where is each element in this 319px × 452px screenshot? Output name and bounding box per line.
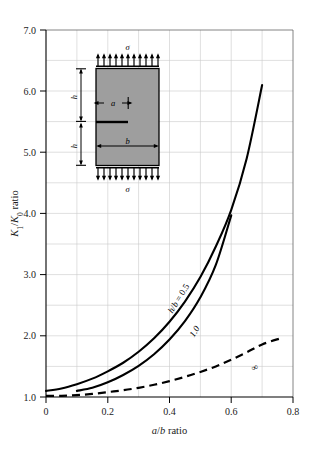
chart-svg: 1.0 2.0 3.0 4.0 5.0 6.0 7.0 0 0.2 0.4 0.…	[0, 0, 319, 452]
x-axis-tick-labels: 0 0.2 0.4 0.6 0.8	[44, 406, 300, 417]
y-tick-label: 1.0	[24, 392, 37, 403]
inset-plate	[96, 69, 159, 166]
y-axis-tick-labels: 1.0 2.0 3.0 4.0 5.0 6.0 7.0	[24, 25, 37, 403]
x-axis-ticks	[46, 397, 293, 403]
inset-b-label: b	[125, 136, 129, 146]
x-tick-label: 0.6	[225, 406, 238, 417]
y-axis-ticks	[40, 30, 46, 397]
inset-a-label: a	[111, 98, 115, 108]
x-tick-label: 0	[44, 406, 49, 417]
inset-h-lower-label: h	[69, 144, 79, 148]
y-tick-label: 4.0	[24, 208, 37, 219]
y-axis-title: K1/K0 ratio	[9, 190, 25, 237]
x-axis-title: a/b ratio	[152, 425, 187, 436]
y-tick-label: 7.0	[24, 25, 37, 36]
x-tick-label: 0.4	[163, 406, 176, 417]
inset-h-upper-label: h	[69, 95, 79, 99]
y-tick-label: 6.0	[24, 86, 37, 97]
y-tick-label: 3.0	[24, 269, 37, 280]
y-tick-label: 5.0	[24, 147, 37, 158]
chart-figure: 1.0 2.0 3.0 4.0 5.0 6.0 7.0 0 0.2 0.4 0.…	[0, 0, 319, 452]
x-tick-label: 0.8	[287, 406, 300, 417]
x-tick-label: 0.2	[102, 406, 115, 417]
y-tick-label: 2.0	[24, 330, 37, 341]
